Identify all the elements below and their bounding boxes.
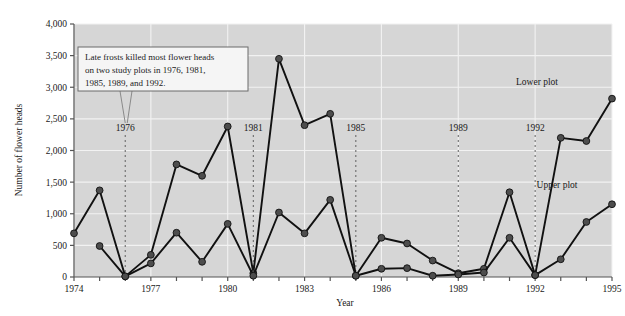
data-point-marker <box>276 55 283 62</box>
x-axis-tick-label: 1974 <box>65 284 84 294</box>
x-axis-tick-label: 1986 <box>372 284 391 294</box>
annotation-line-3: 1985, 1989, and 1992. <box>85 78 166 88</box>
y-axis-tick-label: 2,500 <box>46 114 68 124</box>
data-point-marker <box>583 138 590 145</box>
data-point-marker <box>352 272 359 279</box>
data-point-marker <box>532 272 539 279</box>
data-point-marker <box>147 251 154 258</box>
data-point-marker <box>609 95 616 102</box>
data-point-marker <box>199 258 206 265</box>
data-point-marker <box>506 189 513 196</box>
x-axis-title: Year <box>336 298 354 308</box>
x-axis-tick-label: 1989 <box>449 284 468 294</box>
data-point-marker <box>557 256 564 263</box>
data-point-marker <box>429 257 436 264</box>
event-year-label: 1989 <box>449 123 468 133</box>
data-point-marker <box>481 269 488 276</box>
annotation-line-2: on two study plots in 1976, 1981, <box>85 65 206 75</box>
flower-heads-line-chart: 05001,0001,5002,0002,5003,0003,5004,000 … <box>0 0 625 316</box>
y-axis-tick-label: 1,000 <box>46 209 68 219</box>
data-point-marker <box>250 272 257 279</box>
data-point-marker <box>378 234 385 241</box>
data-point-marker <box>96 243 103 250</box>
x-axis-tick-label: 1992 <box>526 284 545 294</box>
y-axis-tick-label: 4,000 <box>46 19 68 29</box>
data-point-marker <box>378 265 385 272</box>
data-point-marker <box>404 240 411 247</box>
data-point-marker <box>455 271 462 278</box>
y-axis-tick-label: 3,500 <box>46 51 68 61</box>
y-axis-tick-label: 1,500 <box>46 178 68 188</box>
data-point-marker <box>147 260 154 267</box>
x-axis-tick-label: 1980 <box>218 284 237 294</box>
data-point-marker <box>506 234 513 241</box>
data-point-marker <box>96 187 103 194</box>
data-point-marker <box>327 196 334 203</box>
data-point-marker <box>557 134 564 141</box>
data-point-marker <box>276 209 283 216</box>
data-point-marker <box>224 220 231 227</box>
x-axis-tick-label: 1983 <box>295 284 314 294</box>
data-point-marker <box>301 230 308 237</box>
data-point-marker <box>583 219 590 226</box>
chart-svg: 05001,0001,5002,0002,5003,0003,5004,000 … <box>0 0 625 316</box>
data-point-marker <box>609 201 616 208</box>
event-year-label: 1976 <box>116 123 135 133</box>
data-point-marker <box>301 122 308 129</box>
data-point-marker <box>122 273 129 280</box>
data-point-marker <box>404 265 411 272</box>
event-year-label: 1992 <box>526 123 545 133</box>
y-axis-title: Number of flower heads <box>14 103 24 196</box>
y-axis-tick-label: 2,000 <box>46 146 68 156</box>
data-point-marker <box>173 161 180 168</box>
data-point-marker <box>199 172 206 179</box>
data-point-marker <box>71 230 78 237</box>
data-point-marker <box>327 110 334 117</box>
y-axis-tick-label: 0 <box>62 272 67 282</box>
event-year-label: 1981 <box>244 123 263 133</box>
series-label-2: Upper plot <box>537 180 578 190</box>
event-year-label: 1985 <box>346 123 365 133</box>
y-axis-tick-label: 500 <box>53 241 68 251</box>
x-axis-tick-label: 1977 <box>141 284 160 294</box>
annotation-line-1: Late frosts killed most flower heads <box>85 52 215 62</box>
data-point-marker <box>429 272 436 279</box>
series-label-1: Lower plot <box>516 77 558 87</box>
data-point-marker <box>224 123 231 130</box>
data-point-marker <box>173 229 180 236</box>
y-axis-tick-label: 3,000 <box>46 83 68 93</box>
x-axis-tick-label: 1995 <box>603 284 622 294</box>
